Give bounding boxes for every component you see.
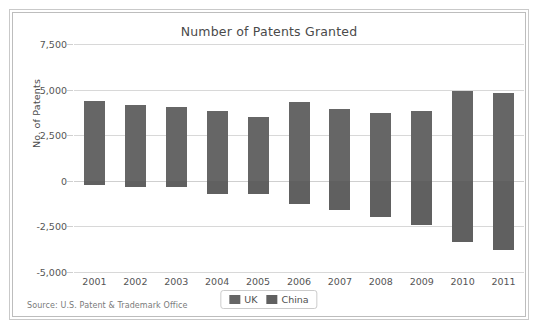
chart-outer-frame: Number of Patents Granted No. of Patents…	[9, 9, 529, 320]
bar-uk-2004	[207, 111, 228, 181]
x-tick-label-2007: 2007	[328, 276, 352, 287]
x-tick-label-2001: 2001	[82, 276, 106, 287]
x-tick-label-2005: 2005	[246, 276, 270, 287]
chart-inner-frame: Number of Patents Granted No. of Patents…	[12, 12, 526, 317]
y-tick-mark--2500	[67, 226, 73, 227]
bar-uk-2008	[370, 113, 391, 180]
x-tick-label-2011: 2011	[491, 276, 515, 287]
legend-label-china: China	[282, 294, 309, 305]
legend-item-china[interactable]: China	[267, 294, 309, 305]
y-tick-label: 5,000	[40, 84, 67, 95]
bar-uk-2009	[411, 111, 432, 181]
x-tick-label-2010: 2010	[451, 276, 475, 287]
bar-uk-2007	[329, 109, 350, 181]
x-tick-label-2009: 2009	[410, 276, 434, 287]
x-tick-label-2004: 2004	[205, 276, 229, 287]
y-tick-mark-2500	[67, 135, 73, 136]
x-tick-label-2008: 2008	[369, 276, 393, 287]
y-tick-label: 7,500	[40, 39, 67, 50]
bar-china-2003	[166, 181, 187, 187]
x-tick-label-2003: 2003	[164, 276, 188, 287]
y-tick-mark-0	[67, 181, 73, 182]
bar-china-2001	[84, 181, 105, 186]
legend-swatch-uk	[229, 295, 240, 304]
bar-uk-2011	[493, 93, 514, 181]
bar-uk-2003	[166, 107, 187, 181]
chart-title: Number of Patents Granted	[13, 24, 525, 39]
gridline-7500	[74, 44, 524, 45]
bar-china-2009	[411, 181, 432, 226]
plot-area: 7,5005,0002,5000-2,500-5,000200120022003…	[74, 44, 524, 272]
legend-item-uk[interactable]: UK	[229, 294, 257, 305]
gridline--5000	[74, 272, 524, 273]
bar-uk-2006	[289, 102, 310, 180]
source-note: Source: U.S. Patent & Trademark Office	[27, 301, 188, 310]
y-tick-label: -5,000	[36, 267, 67, 278]
bar-china-2004	[207, 181, 228, 194]
y-tick-mark-5000	[67, 90, 73, 91]
bar-china-2008	[370, 181, 391, 217]
y-tick-mark--5000	[67, 272, 73, 273]
bar-uk-2002	[125, 105, 146, 181]
bar-china-2011	[493, 181, 514, 250]
y-tick-label: 0	[61, 175, 67, 186]
x-tick-label-2006: 2006	[287, 276, 311, 287]
y-tick-mark-7500	[67, 44, 73, 45]
y-tick-label: 2,500	[40, 130, 67, 141]
legend-label-uk: UK	[244, 294, 257, 305]
legend-swatch-china	[267, 295, 278, 304]
y-tick-label: -2,500	[36, 221, 67, 232]
bar-china-2007	[329, 181, 350, 210]
bar-china-2010	[452, 181, 473, 242]
bar-china-2002	[125, 181, 146, 187]
bar-china-2006	[289, 181, 310, 204]
bar-china-2005	[248, 181, 269, 195]
bar-uk-2001	[84, 101, 105, 181]
chart-legend: UK China	[220, 290, 317, 309]
bar-uk-2005	[248, 117, 269, 181]
x-tick-label-2002: 2002	[123, 276, 147, 287]
bar-uk-2010	[452, 91, 473, 180]
